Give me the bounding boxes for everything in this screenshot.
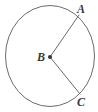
point-label-b: B xyxy=(36,50,45,64)
point-label-c: C xyxy=(77,95,86,109)
geometry-figure: B A C xyxy=(0,0,98,112)
center-point-dot xyxy=(48,55,52,59)
point-label-a: A xyxy=(76,2,85,16)
circle-diagram-svg: B A C xyxy=(0,0,98,112)
